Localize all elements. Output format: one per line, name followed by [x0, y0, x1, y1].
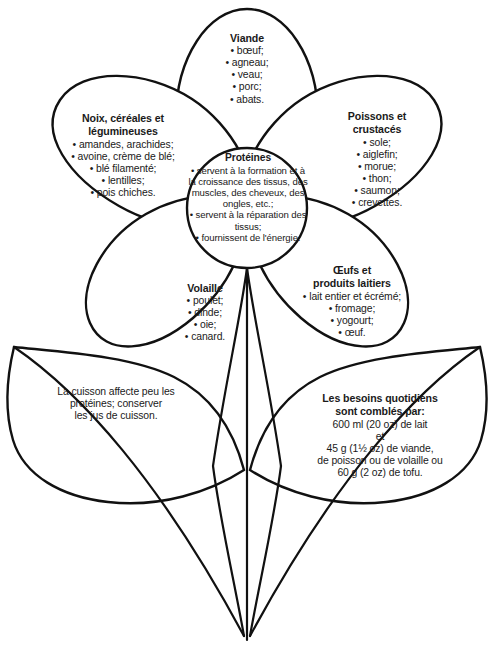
petal-text-oeufs: Œufs et produits laitiers lait entier et… — [282, 264, 422, 339]
petal-heading-noix-line2: légumineuses — [44, 125, 202, 137]
petal-item: yogourt; — [282, 315, 422, 327]
leaf-line: et — [278, 431, 482, 443]
stem-tip-right — [250, 466, 281, 636]
center-text-proteines: Protéines servent à la formation et à la… — [188, 152, 308, 243]
petal-heading-noix-line1: Noix, céréales et — [44, 112, 202, 124]
diagram-canvas: Viande bœuf; agneau; veau; porc; abats. … — [0, 0, 494, 647]
petal-item: dinde; — [150, 307, 260, 319]
petal-item: abats. — [181, 94, 313, 106]
petal-text-noix: Noix, céréales et légumineuses amandes, … — [44, 112, 202, 199]
leaf-text-besoins: Les besoins quotidiens sont comblés par:… — [278, 392, 482, 479]
leaf-heading-besoins-line1: Les besoins quotidiens — [278, 392, 482, 404]
petal-heading-poissons-line1: Poissons et — [312, 110, 442, 122]
leaf-line: protéines; conserver — [18, 398, 214, 410]
petal-item: fromage; — [282, 303, 422, 315]
petal-heading-volaille: Volaille — [150, 282, 260, 294]
leaf-line: 45 g (1½ oz) de viande, — [278, 443, 482, 455]
petal-text-viande: Viande bœuf; agneau; veau; porc; abats. — [181, 32, 313, 106]
petal-item: pois chiches. — [44, 187, 202, 199]
petal-text-volaille: Volaille poulet; dinde; oie; canard. — [150, 282, 260, 344]
petal-item: lait entier et écrémé; — [282, 291, 422, 303]
petal-item: veau; — [181, 69, 313, 81]
petal-item: poulet; — [150, 295, 260, 307]
stem-tip-left — [213, 466, 244, 636]
leaf-line: 600 ml (20 oz) de lait — [278, 419, 482, 431]
petal-item: bœuf; — [181, 45, 313, 57]
petal-item: oie; — [150, 319, 260, 331]
petal-item: crevettes. — [312, 197, 442, 209]
petal-item: morue; — [312, 161, 442, 173]
petal-heading-viande: Viande — [181, 32, 313, 44]
leaf-line: La cuisson affecte peu les — [18, 386, 214, 398]
petal-item: canard. — [150, 331, 260, 343]
petal-item: sole; — [312, 137, 442, 149]
petal-item: lentilles; — [44, 175, 202, 187]
petal-heading-oeufs-line2: produits laitiers — [282, 277, 422, 289]
petal-item: saumon; — [312, 185, 442, 197]
petal-item: œuf. — [282, 327, 422, 339]
center-heading: Protéines — [188, 152, 308, 164]
leaf-line: de poisson ou de volaille ou — [278, 455, 482, 467]
petal-item: blé filamenté; — [44, 163, 202, 175]
petal-item: aiglefin; — [312, 149, 442, 161]
petal-item: amandes, arachides; — [44, 139, 202, 151]
petal-item: porc; — [181, 81, 313, 93]
petal-heading-oeufs-line1: Œufs et — [282, 264, 422, 276]
leaf-heading-besoins-line2: sont comblés par: — [278, 405, 482, 417]
leaf-text-cuisson: La cuisson affecte peu les protéines; co… — [18, 386, 214, 422]
petal-heading-poissons-line2: crustacés — [312, 123, 442, 135]
leaf-line: les jus de cuisson. — [18, 410, 214, 422]
leaf-shape-cuisson — [8, 347, 244, 503]
petal-text-poissons: Poissons et crustacés sole; aiglefin; mo… — [312, 110, 442, 209]
petal-item: avoine, crème de blé; — [44, 151, 202, 163]
center-item: fournissent de l'énergie. — [188, 232, 308, 243]
petal-item: thon; — [312, 173, 442, 185]
leaf-line: 60 g (2 oz) de tofu. — [278, 467, 482, 479]
center-item: servent à la réparation des tissus; — [188, 209, 308, 231]
center-item: servent à la formation et à la croissanc… — [188, 165, 308, 210]
petal-item: agneau; — [181, 57, 313, 69]
